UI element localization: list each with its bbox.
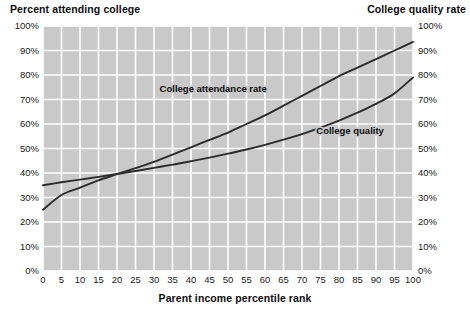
x-tick-label: 70: [297, 274, 308, 285]
x-tick-label: 50: [223, 274, 234, 285]
y-tick-label-left: 100%: [15, 20, 40, 31]
line-chart-plot: College attendance rateCollege attendanc…: [0, 0, 470, 311]
y-tick-label-right: 100%: [418, 20, 443, 31]
y-tick-label-right: 20%: [418, 216, 438, 227]
x-tick-label: 20: [112, 274, 123, 285]
y-tick-label-left: 70%: [20, 94, 40, 105]
x-tick-label: 5: [59, 274, 64, 285]
x-tick-label: 65: [278, 274, 289, 285]
series-label-2: College quality: [316, 125, 384, 136]
y-tick-label-left: 90%: [20, 45, 40, 56]
x-tick-label: 25: [130, 274, 141, 285]
y-tick-label-right: 90%: [418, 45, 438, 56]
x-tick-label: 95: [389, 274, 400, 285]
x-tick-label: 0: [40, 274, 45, 285]
y-tick-label-right: 60%: [418, 118, 438, 129]
x-axis-title: Parent income percentile rank: [0, 292, 470, 304]
y-tick-label-left: 60%: [20, 118, 40, 129]
chart-container: Percent attending college College qualit…: [0, 0, 470, 311]
y-tick-label-right: 40%: [418, 167, 438, 178]
x-tick-label: 15: [93, 274, 104, 285]
series-label-1: College attendance rate: [160, 83, 267, 94]
y-tick-label-right: 10%: [418, 241, 438, 252]
x-tick-label: 30: [149, 274, 160, 285]
x-tick-label: 45: [204, 274, 215, 285]
y-tick-label-left: 10%: [20, 241, 40, 252]
y-tick-label-left: 40%: [20, 167, 40, 178]
x-tick-label: 90: [371, 274, 382, 285]
y-tick-label-right: 80%: [418, 69, 438, 80]
x-tick-label: 40: [186, 274, 197, 285]
y-tick-label-right: 50%: [418, 143, 438, 154]
x-tick-label: 35: [167, 274, 178, 285]
x-tick-label: 100: [405, 274, 421, 285]
y-tick-label-left: 0%: [25, 265, 39, 276]
y-tick-label-left: 20%: [20, 216, 40, 227]
x-tick-label: 55: [241, 274, 252, 285]
y-tick-label-right: 30%: [418, 192, 438, 203]
x-tick-label: 80: [334, 274, 345, 285]
x-tick-label: 85: [352, 274, 363, 285]
x-tick-label: 75: [315, 274, 326, 285]
gridlines: [43, 26, 413, 271]
y-tick-label-left: 80%: [20, 69, 40, 80]
x-tick-label: 10: [75, 274, 86, 285]
y-tick-label-left: 30%: [20, 192, 40, 203]
y-tick-label-left: 50%: [20, 143, 40, 154]
y-tick-label-right: 70%: [418, 94, 438, 105]
x-tick-label: 60: [260, 274, 271, 285]
